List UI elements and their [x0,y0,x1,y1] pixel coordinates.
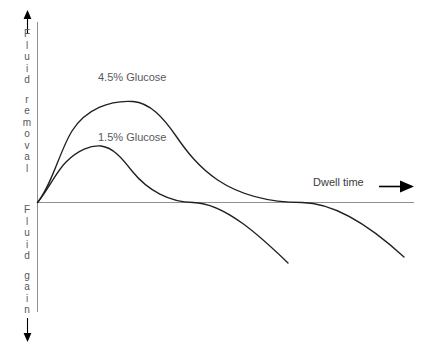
y-label-letter: e [24,105,30,117]
y-label-letter: n [24,304,30,316]
y-label-letter: u [24,227,30,239]
y-label-letter: r [25,94,28,106]
y-label-letter: a [24,281,30,293]
series-label-glucose-45: 4.5% Glucose [98,71,166,83]
y-label-letter: F [24,28,30,40]
y-label-letter: o [24,128,30,140]
y-label-letter: l [26,216,28,228]
y-axis-down-arrow-icon [24,318,32,342]
y-label-letter: l [26,40,28,52]
y-label-letter: F [24,204,30,216]
y-label-letter: m [23,117,31,129]
y-axis-label-fluid-removal: F l u i d r e m o v a l [16,28,38,174]
curve-glucose-15 [38,146,289,263]
y-label-letter: v [25,140,30,152]
series-label-glucose-15: 1.5% Glucose [98,131,166,143]
x-axis-right-arrow-icon [379,181,414,193]
y-label-letter: d [24,74,30,86]
y-label-letter: i [26,293,28,305]
y-label-letter: i [26,63,28,75]
y-label-letter: d [24,250,30,262]
y-label-letter: i [26,239,28,251]
y-label-letter: u [24,51,30,63]
y-label-letter: l [26,163,28,175]
y-label-letter: g [24,270,30,282]
fluid-removal-chart: F l u i d r e m o v a l F l u i d g a i … [0,0,424,354]
y-label-letter: a [24,151,30,163]
y-axis-label-fluid-gain: F l u i d g a i n [16,204,38,316]
x-axis-label-dwell-time: Dwell time [313,176,364,188]
